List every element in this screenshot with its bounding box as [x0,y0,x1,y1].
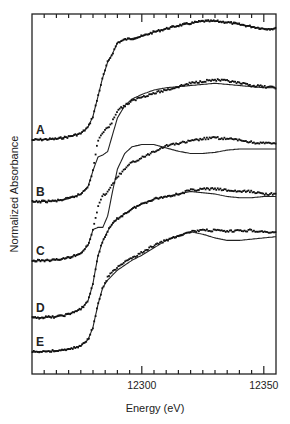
series-label-D: D [36,301,45,315]
fit-line-D [32,192,276,319]
spectra-curves [32,19,277,353]
series-label-A: A [36,123,45,137]
series-labels: ABCDE [36,123,45,349]
series-label-E: E [36,335,44,349]
x-axis-tick-labels: 1230012350 [127,379,278,391]
fit-line-E [32,232,276,352]
x-tick-label: 12350 [249,379,278,391]
fit-line-A [32,21,276,140]
fit-line-C [32,145,276,262]
data-points-A [32,19,277,141]
xanes-chart: 1230012350 ABCDE [0,0,290,424]
x-axis-label: Energy (eV) [0,402,290,414]
series-label-C: C [36,244,45,258]
x-axis-ticks [44,14,264,374]
fit-line-B [32,83,276,202]
data-points-B [32,78,277,203]
series-label-B: B [36,185,45,199]
plot-border [32,14,276,374]
data-points-E [32,229,277,354]
data-points-D [32,187,277,319]
x-tick-label: 12300 [127,379,156,391]
plot-frame [32,14,276,374]
